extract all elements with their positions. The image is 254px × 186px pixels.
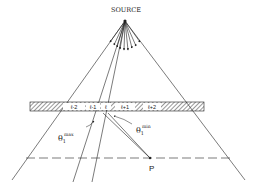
cell-label-l-plus-1: ℓ+1 [121, 104, 129, 110]
theta-min-label: θ1min [136, 124, 151, 136]
cell-label-l-minus-2: ℓ-2 [71, 104, 78, 110]
point-p [149, 157, 151, 159]
cell-label-l: ℓ [105, 104, 107, 110]
theta-max-label: θ1max [58, 132, 74, 144]
ray-diagram: SOURCE ℓ-2 ℓ-1 ℓ ℓ+1 ℓ+2 [0, 0, 254, 186]
cell-label-l-plus-2: ℓ+2 [148, 104, 156, 110]
cell-label-l-minus-1: ℓ-1 [90, 104, 97, 110]
point-p-label: P [149, 164, 154, 173]
source-label: SOURCE [111, 6, 141, 14]
